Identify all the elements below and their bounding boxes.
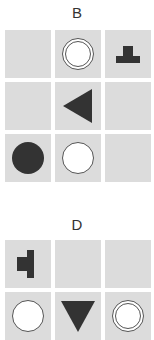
double-circle-icon (60, 36, 96, 72)
panel-b-label: B (0, 4, 154, 21)
cell-d-1[interactable] (5, 240, 51, 288)
filled-circle-icon (11, 141, 45, 175)
cell-d-2[interactable] (55, 240, 101, 288)
panel-b-grid (5, 30, 151, 182)
cell-d-6[interactable] (105, 292, 151, 340)
cell-b-8[interactable] (55, 134, 101, 182)
t-shape-left-icon (13, 249, 43, 279)
triangle-left-icon (61, 86, 95, 126)
cell-b-3[interactable] (105, 30, 151, 78)
panel-d-label: D (0, 216, 154, 233)
open-circle-icon (61, 141, 95, 175)
t-shape-up-icon (113, 39, 143, 69)
open-circle-icon (11, 299, 45, 333)
triangle-down-icon (59, 298, 97, 334)
cell-d-5[interactable] (55, 292, 101, 340)
double-circle-icon (110, 298, 146, 334)
cell-b-1[interactable] (5, 30, 51, 78)
cell-b-4[interactable] (5, 82, 51, 130)
cell-b-7[interactable] (5, 134, 51, 182)
panel-d-grid (5, 240, 151, 340)
cell-b-5[interactable] (55, 82, 101, 130)
cell-b-2[interactable] (55, 30, 101, 78)
cell-d-4[interactable] (5, 292, 51, 340)
cell-d-3[interactable] (105, 240, 151, 288)
cell-b-6[interactable] (105, 82, 151, 130)
cell-b-9[interactable] (105, 134, 151, 182)
